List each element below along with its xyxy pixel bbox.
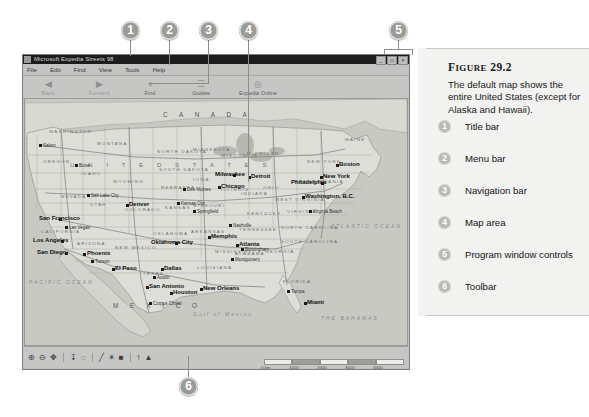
measure-icon[interactable]: ↧ [70, 353, 77, 363]
title-bar[interactable]: Microsoft Expedia Streets 98 _ □ × [23, 55, 409, 64]
map-city-dot-minor-14 [309, 210, 312, 213]
tool-separator-2 [92, 353, 93, 362]
toolbar-button-back[interactable]: ◀ Back [27, 79, 69, 97]
map-city-label-19: Washington, B.C. [305, 193, 354, 199]
map-canvas [25, 99, 407, 345]
menu-item-edit[interactable]: Edit [50, 66, 61, 73]
map-city-dot-minor-2 [87, 194, 90, 197]
map-scale-bar: 0 km1000200030004000 [264, 359, 404, 365]
scale-segment-1: 1000 [292, 359, 320, 365]
callout-3: 3 [199, 21, 218, 40]
figure-panel: FIGURE 29.2 The default map shows the en… [418, 48, 589, 316]
legend-label-3: Navigation bar [465, 184, 527, 197]
map-city-dot-minor-6 [149, 302, 152, 305]
window-controls[interactable]: _ □ × [376, 56, 408, 65]
map-state-label-34: SOUTH CAROLINA [281, 239, 338, 244]
maximize-button[interactable]: □ [387, 56, 397, 65]
legend-number-4: 4 [438, 216, 451, 229]
map-city-dot-minor-0 [39, 144, 42, 147]
map-city-label-minor-6: Corpus Christi [153, 301, 182, 306]
toolbar-button-forward[interactable]: ▶ Forward [78, 79, 120, 97]
map-state-label-16: ARIZONA [77, 241, 106, 246]
figure-word-igure: IGURE [455, 63, 487, 73]
map-city-label-9: New Orleans [203, 285, 239, 291]
map-water-label-2: ATLANTIC OCEAN [331, 223, 402, 229]
map-state-label-21: LOUISIANA [197, 265, 232, 270]
map-city-dot-minor-12 [229, 224, 232, 227]
map-city-dot-minor-5 [153, 276, 156, 279]
map-state-label-27: KENTUCKY [247, 211, 281, 216]
map-city-label-minor-0: Salem [43, 143, 56, 148]
map-city-label-20: Denver [129, 201, 149, 207]
back-icon: ◀ [27, 79, 69, 90]
pushpin-icon[interactable]: ■ [119, 353, 124, 363]
route-icon[interactable]: ◌ [81, 353, 86, 363]
map-city-label-minor-4: Tucson [95, 259, 110, 264]
figure-number: 29.2 [490, 61, 512, 73]
minimize-button[interactable]: _ [376, 56, 386, 65]
menu-item-tools[interactable]: Tools [125, 66, 139, 73]
application-window: Microsoft Expedia Streets 98 _ □ × File … [22, 54, 410, 370]
close-button[interactable]: × [398, 56, 408, 65]
toolbar-label-guides: Guides [180, 90, 222, 97]
map-city-dot-20 [126, 204, 129, 207]
map-city-label-minor-3: Las Vegas [69, 225, 90, 230]
map-city-dot-11 [236, 244, 239, 247]
scale-label-4: 4000 [373, 365, 383, 370]
menu-item-find[interactable]: Find [74, 66, 86, 73]
toolbar-button-guides[interactable]: ☰ Guides [180, 79, 222, 97]
map-city-label-minor-7: Springfield [197, 209, 218, 214]
marker-icon[interactable]: ▲ [145, 353, 153, 363]
legend-number-1: 1 [438, 120, 451, 133]
legend-label-1: Title bar [465, 120, 499, 133]
legend-number-3: 3 [438, 184, 451, 197]
map-city-dot-0 [59, 218, 62, 221]
menu-bar: File Edit Find View Tools Help [23, 64, 409, 76]
callout-leader-3-h [152, 83, 209, 84]
legend-item-map-area: 4Map area [438, 216, 589, 230]
locate-icon[interactable]: ↑ [137, 353, 141, 363]
map-city-label-minor-14: Virginia Beach [313, 209, 342, 214]
map-city-dot-2 [65, 252, 68, 255]
callout-leader-4 [248, 40, 249, 182]
map-city-dot-12 [304, 302, 307, 305]
zoom-in-icon[interactable]: ⊕ [28, 353, 35, 363]
scale-label-1: 1000 [289, 365, 299, 370]
scale-segment-2: 2000 [320, 359, 348, 365]
map-city-label-10: Memphis [211, 233, 237, 239]
toolbar-button-expedia-online[interactable]: ◎ Expedia Online [231, 79, 285, 97]
legend-label-4: Map area [465, 216, 506, 229]
window-title: Microsoft Expedia Streets 98 [34, 55, 114, 64]
map-state-label-7: COLORADO [125, 207, 161, 212]
toolbar: ⊕ ⊖ ✥ ↧ ◌ ╱ ☀ ■ ↑ ▲ 0 km1000200030004000 [24, 346, 408, 368]
menu-item-help[interactable]: Help [152, 66, 165, 73]
callout-5: 5 [389, 21, 408, 40]
highlight-icon[interactable]: ☀ [108, 353, 115, 363]
map-city-label-minor-5: Austin [157, 275, 170, 280]
map-city-label-minor-2: Salt Lake City [91, 193, 119, 198]
map-water-label-1: PACIFIC OCEAN [29, 279, 94, 285]
map-city-label-6: Houston [173, 289, 197, 295]
panel-rule-bottom [426, 315, 589, 316]
panel-rule-top [426, 48, 589, 49]
zoom-out-icon[interactable]: ⊖ [39, 353, 46, 363]
system-menu-icon[interactable] [24, 56, 31, 63]
menu-item-view[interactable]: View [99, 66, 112, 73]
map-city-dot-minor-1 [75, 164, 78, 167]
toolbar-label-forward: Forward [78, 90, 120, 97]
map-state-label-6: UTAH [90, 202, 107, 207]
pencil-icon[interactable]: ╱ [99, 353, 104, 363]
map-city-label-minor-11: Birmingham [245, 247, 269, 252]
map-area[interactable]: C A N A D AM E X I C OU N I T E D S T A … [24, 98, 408, 346]
map-state-label-0: WASHINGTON [49, 129, 92, 134]
toolbar-label-back: Back [27, 90, 69, 97]
menu-item-file[interactable]: File [27, 66, 37, 73]
pan-icon[interactable]: ✥ [50, 353, 57, 363]
map-city-dot-7 [161, 268, 164, 271]
map-city-dot-13 [218, 186, 221, 189]
toolbar-button-find[interactable]: ⌖ Find [129, 79, 171, 97]
map-water-label-3: THE BAHAMAS [321, 315, 379, 321]
callout-leader-3 [208, 40, 209, 84]
map-state-label-18: OKLAHOMA [153, 231, 188, 236]
map-city-dot-17 [320, 176, 323, 179]
